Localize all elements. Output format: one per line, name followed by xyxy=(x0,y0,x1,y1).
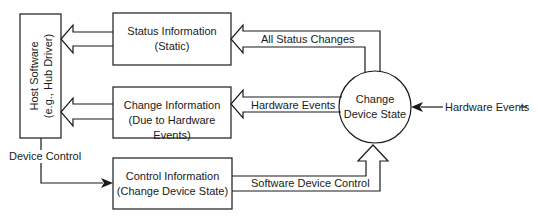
change-device-state-line2: Device State xyxy=(339,107,411,122)
control-information-label: Control Information (Change Device State… xyxy=(113,169,232,199)
host-software-line1: Host Software xyxy=(27,14,41,138)
change-information-line1: Change Information xyxy=(113,98,231,113)
status-information-label: Status Information (Static) xyxy=(113,24,231,54)
device-control-line-bottom xyxy=(41,163,103,183)
device-control-label: Device Control xyxy=(9,150,81,163)
status-information-line2: (Static) xyxy=(113,39,231,54)
software-device-control-label: Software Device Control xyxy=(251,177,370,190)
change-information-label: Change Information (Due to Hardware Even… xyxy=(113,98,231,143)
status-to-host-arrow xyxy=(61,25,113,53)
all-status-changes-label: All Status Changes xyxy=(261,33,355,46)
hardware-events-internal-label: Hardware Events xyxy=(251,99,335,112)
change-to-host-arrow xyxy=(61,98,113,126)
change-information-line2: (Due to Hardware Events) xyxy=(113,113,231,143)
control-information-line2: (Change Device State) xyxy=(113,184,232,199)
status-information-line1: Status Information xyxy=(113,24,231,39)
change-device-state-label: Change Device State xyxy=(339,92,411,122)
host-software-label: Host Software (e.g., Hub Driver) xyxy=(27,14,55,138)
host-software-line2: (e.g., Hub Driver) xyxy=(41,14,55,138)
control-information-line1: Control Information xyxy=(113,169,232,184)
hardware-events-external-label: Hardware Events xyxy=(445,101,529,114)
change-device-state-line1: Change xyxy=(339,92,411,107)
